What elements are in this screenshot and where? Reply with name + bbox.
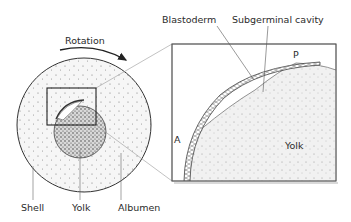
subgerminal-cavity-label: Subgerminal cavity xyxy=(232,14,324,25)
yolk-right-label: Yolk xyxy=(284,140,304,151)
albumen-label: Albumen xyxy=(118,202,160,213)
blastoderm-label: Blastoderm xyxy=(162,14,216,25)
rotation-label: Rotation xyxy=(65,35,105,46)
zoom-panel xyxy=(172,44,338,183)
point-a-label: A xyxy=(174,134,181,145)
yolk-left-label: Yolk xyxy=(71,202,91,213)
shell-label: Shell xyxy=(21,202,44,213)
egg-diagram: Rotation Blastoderm Subgerminal cavity P… xyxy=(0,0,351,222)
point-p-label: P xyxy=(293,49,299,60)
